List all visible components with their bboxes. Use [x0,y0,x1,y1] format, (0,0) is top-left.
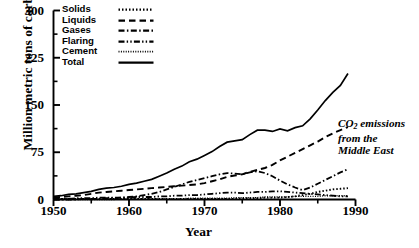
legend-item-line-sample [118,25,154,36]
annotation-subscript-2: 2 [354,122,358,131]
legend-item-line-sample [118,46,154,57]
chart-series-group [54,74,348,200]
chart-legend: SolidsLiquidsGasesFlaringCementTotal [62,4,160,68]
x-axis-tick-label: 1960 [105,203,153,219]
legend-item-line-sample [118,57,154,68]
legend-item-line-sample [118,4,154,15]
legend-item-line-sample [118,36,154,47]
legend-item-total: Total [62,57,160,68]
series-line-liquids [54,127,348,198]
legend-item-solids: Solids [62,4,160,15]
x-axis-title: Year [185,224,212,240]
x-axis-tick-label: 1980 [256,203,304,219]
annotation-line-2: from the [338,132,405,145]
annotation-line-3: Middle East [338,144,405,157]
legend-item-line-sample [118,15,154,26]
x-axis-tick-label: 1990 [332,203,380,219]
chart-figure: 300225150750 19501960197019801990 Millio… [0,0,419,248]
x-axis-tick-label: 1970 [181,203,229,219]
annotation-emissions: emissions [358,117,406,129]
annotation-line-1: CO2 emissions [338,117,405,132]
x-axis-tick-label: 1950 [30,203,78,219]
y-axis-title: Million metric tons of carbon [20,0,36,166]
series-line-total [54,74,348,197]
annotation-co: CO [338,117,354,129]
chart-annotation: CO2 emissions from the Middle East [338,117,405,157]
legend-item-label: Total [62,57,84,68]
x-axis-tick-labels: 19501960197019801990 [0,203,419,225]
legend-item-label: Solids [62,4,91,15]
